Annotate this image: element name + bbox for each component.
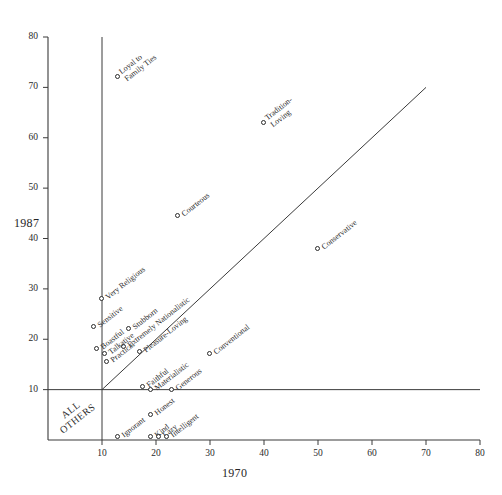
x-axis-label: 1970 bbox=[222, 466, 247, 481]
x-axis-tick-label: 10 bbox=[89, 448, 115, 458]
y-axis-tick-label: 50 bbox=[12, 182, 38, 192]
x-axis-tick-label: 80 bbox=[467, 448, 493, 458]
y-axis-tick-label: 60 bbox=[12, 132, 38, 142]
x-axis-tick-label: 20 bbox=[143, 448, 169, 458]
y-axis-tick-label: 80 bbox=[12, 31, 38, 41]
data-point-marker bbox=[91, 324, 96, 329]
data-point-marker bbox=[169, 387, 174, 392]
data-point-marker bbox=[137, 349, 142, 354]
x-axis-tick-label: 50 bbox=[305, 448, 331, 458]
y-axis-tick-label: 30 bbox=[12, 283, 38, 293]
data-point-marker bbox=[94, 346, 99, 351]
y-axis-tick-label: 40 bbox=[12, 233, 38, 243]
data-point-marker bbox=[175, 213, 180, 218]
x-axis-tick-label: 30 bbox=[197, 448, 223, 458]
data-point-marker bbox=[261, 120, 266, 125]
x-axis-tick-label: 70 bbox=[413, 448, 439, 458]
data-point-marker bbox=[148, 412, 153, 417]
data-point-marker bbox=[140, 384, 145, 389]
x-axis-tick-label: 40 bbox=[251, 448, 277, 458]
data-point-marker bbox=[148, 387, 153, 392]
scatter-plot: 1987 1970 1020304050607080 1020304050607… bbox=[0, 0, 502, 495]
y-axis-tick-label: 20 bbox=[12, 333, 38, 343]
y-axis-tick-label: 10 bbox=[12, 384, 38, 394]
data-point-marker bbox=[315, 246, 320, 251]
y-axis-label: 1987 bbox=[14, 216, 39, 231]
data-point-marker bbox=[99, 296, 104, 301]
x-axis-tick-label: 60 bbox=[359, 448, 385, 458]
y-axis-tick-label: 70 bbox=[12, 81, 38, 91]
